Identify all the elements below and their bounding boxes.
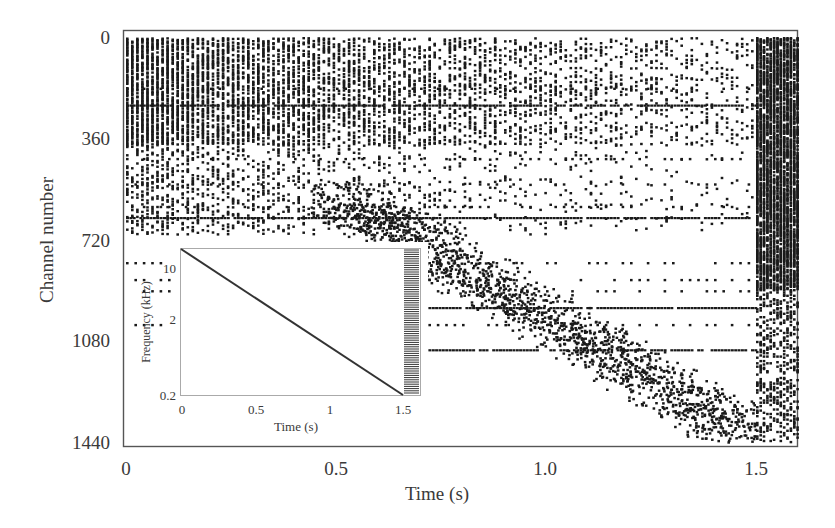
y-tick-label: 1440: [72, 432, 110, 453]
inset-x-axis-title: Time (s): [274, 419, 318, 434]
inset-y-tick-label: 2: [170, 312, 177, 327]
inset-y-axis-title: Frequency (kHz): [139, 281, 153, 363]
y-tick-label: 1080: [72, 330, 110, 351]
y-tick-label: 0: [101, 27, 111, 48]
inset-chart: 10 2 0.2 0 0.5 1 1.5 Time (s) Frequency …: [139, 242, 428, 444]
y-axis: 0 360 720 1080 1440 Channel number: [36, 27, 110, 453]
x-axis: 0 0.5 1.0 1.5 Time (s): [121, 458, 768, 505]
inset-plot-frame: [181, 249, 421, 396]
inset-x-tick-label: 1.5: [395, 402, 411, 417]
raster-chart: 0 360 720 1080 1440 Channel number 0 0.5…: [0, 0, 835, 528]
x-tick-label: 0: [121, 458, 131, 479]
inset-x-tick-label: 1: [327, 402, 334, 417]
inset-x-tick-label: 0.5: [248, 402, 264, 417]
x-tick-label: 1.0: [533, 458, 557, 479]
x-tick-label: 0.5: [324, 458, 348, 479]
y-tick-label: 720: [82, 230, 111, 251]
x-tick-label: 1.5: [744, 458, 768, 479]
inset-y-tick-label: 0.2: [160, 388, 176, 403]
inset-y-tick-label: 10: [163, 261, 176, 276]
y-tick-label: 360: [82, 128, 111, 149]
inset-x-tick-label: 0: [179, 402, 186, 417]
x-axis-title: Time (s): [405, 483, 469, 505]
y-axis-title: Channel number: [36, 176, 57, 303]
